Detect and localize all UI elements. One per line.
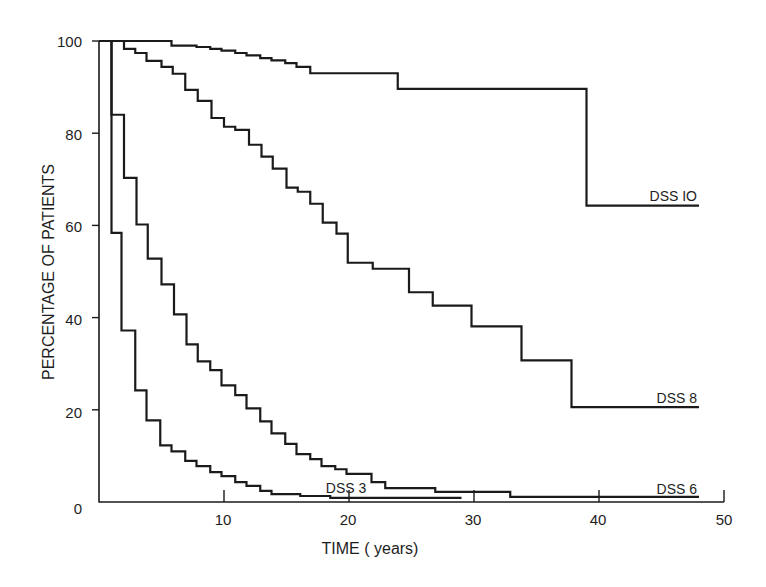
x-tick-label-20: 20: [340, 511, 357, 528]
curve-dss10: [99, 41, 699, 206]
series-label-dss3: DSS 3: [326, 480, 367, 496]
y-tick-label-0: 0: [74, 500, 82, 517]
x-tick-label-50: 50: [716, 511, 733, 528]
curve-dss8: [99, 41, 699, 407]
y-tick-label-100: 100: [57, 33, 82, 50]
series-label-dss10: DSS IO: [650, 188, 698, 204]
x-tick-label-40: 40: [590, 511, 607, 528]
series-label-dss6: DSS 6: [657, 481, 698, 497]
survival-curves: [99, 41, 699, 498]
y-tick-label-60: 60: [65, 218, 82, 235]
x-axis-title: TIME ( years): [322, 540, 419, 557]
y-axis-title: PERCENTAGE OF PATIENTS: [40, 164, 57, 380]
survival-chart: 0 20 40 60 80 100 10 20 30 40 50 TIME ( …: [0, 0, 766, 587]
series-label-dss8: DSS 8: [657, 390, 698, 406]
x-tick-label-10: 10: [215, 511, 232, 528]
y-tick-label-20: 20: [65, 404, 82, 421]
y-tick-label-80: 80: [65, 126, 82, 143]
x-tick-label-30: 30: [465, 511, 482, 528]
y-tick-label-40: 40: [65, 311, 82, 328]
